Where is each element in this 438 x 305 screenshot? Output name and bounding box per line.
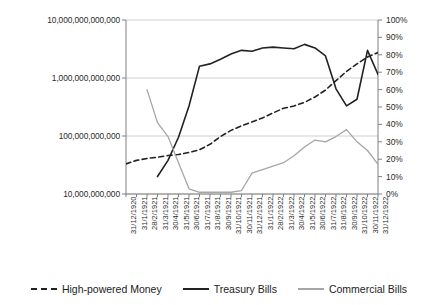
legend-swatch-icon (183, 288, 209, 290)
legend-item[interactable]: High-powered Money (31, 283, 162, 295)
legend-item[interactable]: Commercial Bills (298, 283, 407, 295)
legend-label: High-powered Money (62, 283, 162, 295)
series-line-commercial-bills (147, 90, 378, 193)
chart-container: 10,000,000,000100,000,000,0001,000,000,0… (0, 0, 438, 305)
chart-legend: High-powered MoneyTreasury BillsCommerci… (0, 278, 438, 300)
legend-label: Treasury Bills (214, 283, 277, 295)
legend-swatch-icon (31, 288, 57, 290)
plot-area (0, 0, 438, 305)
legend-swatch-icon (298, 288, 324, 290)
series-line-high-powered-money (126, 53, 378, 164)
series-group (126, 44, 378, 192)
legend-label: Commercial Bills (329, 283, 407, 295)
series-line-treasury-bills (158, 44, 379, 176)
legend-item[interactable]: Treasury Bills (183, 283, 277, 295)
